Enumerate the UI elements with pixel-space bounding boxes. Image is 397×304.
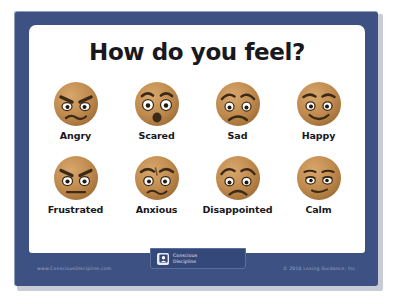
frustrated-face-icon bbox=[51, 153, 101, 203]
emotion-label: Calm bbox=[280, 204, 358, 215]
logo-glyph-icon bbox=[159, 254, 168, 263]
poster-footer: www.ConsciousDiscipline.com Conscious Di… bbox=[15, 252, 378, 286]
logo-line-2: Discipline bbox=[173, 259, 197, 264]
poster-frame: How do you feel? bbox=[14, 11, 378, 286]
conscious-discipline-logo-tab[interactable]: Conscious Discipline bbox=[150, 248, 246, 269]
scared-face-icon bbox=[132, 79, 182, 129]
poster-board: How do you feel? bbox=[29, 25, 365, 253]
emotion-cell-sad[interactable]: Sad bbox=[199, 79, 277, 141]
footer-website-url[interactable]: www.ConsciousDiscipline.com bbox=[37, 266, 111, 271]
sad-face-icon bbox=[213, 79, 263, 129]
emotion-cell-disappointed[interactable]: Disappointed bbox=[199, 153, 277, 215]
disappointed-face-icon bbox=[213, 153, 263, 203]
emotion-label: Disappointed bbox=[199, 204, 277, 215]
emotion-row-1: Angry bbox=[35, 79, 359, 141]
emotion-cell-scared[interactable]: Scared bbox=[118, 79, 196, 141]
emotion-cell-happy[interactable]: Happy bbox=[280, 79, 358, 141]
happy-face-icon bbox=[294, 79, 344, 129]
emotion-cell-calm[interactable]: Calm bbox=[280, 153, 358, 215]
emotion-cell-angry[interactable]: Angry bbox=[37, 79, 115, 141]
page-title: How do you feel? bbox=[29, 39, 365, 65]
calm-face-icon bbox=[294, 153, 344, 203]
emotion-row-2: Frustrated bbox=[35, 153, 359, 215]
emotion-label: Scared bbox=[118, 130, 196, 141]
emotion-grid: Angry bbox=[35, 79, 359, 227]
emotion-label: Angry bbox=[37, 130, 115, 141]
conscious-discipline-logo-icon bbox=[157, 253, 169, 265]
emotion-label: Frustrated bbox=[37, 204, 115, 215]
angry-face-icon bbox=[51, 79, 101, 129]
logo-text-block: Conscious Discipline bbox=[173, 253, 197, 264]
logo-line-1: Conscious bbox=[173, 253, 197, 258]
anxious-face-icon bbox=[132, 153, 182, 203]
emotion-poster: How do you feel? bbox=[14, 11, 383, 291]
emotion-label: Happy bbox=[280, 130, 358, 141]
emotion-cell-frustrated[interactable]: Frustrated bbox=[37, 153, 115, 215]
emotion-cell-anxious[interactable]: Anxious bbox=[118, 153, 196, 215]
emotion-label: Sad bbox=[199, 130, 277, 141]
footer-copyright: © 2010 Loving Guidance, Inc. bbox=[283, 266, 357, 271]
emotion-label: Anxious bbox=[118, 204, 196, 215]
